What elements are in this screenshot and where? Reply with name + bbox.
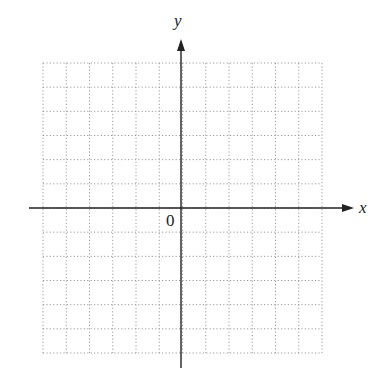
y-axis-arrow-icon [177, 39, 185, 51]
y-axis-label: y [174, 12, 182, 29]
y-axis [177, 39, 185, 368]
x-axis-arrow-icon [342, 204, 354, 212]
coordinate-plane [0, 0, 384, 385]
origin-label: 0 [166, 212, 175, 229]
x-axis [29, 204, 354, 212]
x-axis-label: x [359, 199, 367, 216]
